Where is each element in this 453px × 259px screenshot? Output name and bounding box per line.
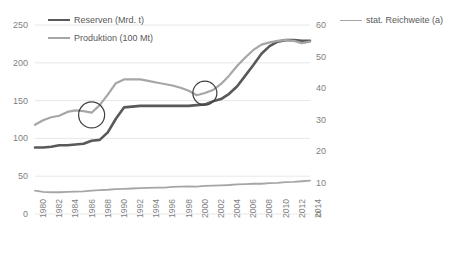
- x-tick: 2006: [249, 199, 258, 218]
- x-tick: 2012: [298, 199, 307, 218]
- y-right-tick: 40: [316, 83, 342, 93]
- legend-item-1[interactable]: Reserven (Mrd. t): [48, 15, 144, 25]
- x-tick: 1998: [185, 199, 194, 218]
- circle-1987: [79, 102, 105, 128]
- series-line-1: [35, 40, 310, 147]
- legend-label: stat. Reichweite (a): [366, 15, 443, 25]
- legend-swatch-icon: [48, 19, 70, 21]
- legend-swatch-icon: [340, 20, 362, 21]
- y-left-tick: 50: [2, 171, 28, 181]
- legend-item-3[interactable]: stat. Reichweite (a): [340, 15, 443, 25]
- x-tick: 1992: [136, 199, 145, 218]
- y-left-tick: 0: [2, 209, 28, 219]
- x-tick: 2000: [201, 199, 210, 218]
- x-tick: 1982: [55, 199, 64, 218]
- legend-swatch-icon: [48, 37, 70, 39]
- legend-label: Reserven (Mrd. t): [74, 15, 144, 25]
- x-tick: 2008: [265, 199, 274, 218]
- y-right-tick: 60: [316, 20, 342, 30]
- x-tick: 1988: [104, 199, 113, 218]
- gridlines: [35, 25, 310, 214]
- x-tick: 1996: [168, 199, 177, 218]
- x-tick: 2014: [314, 199, 323, 218]
- chart-container: 050100150200250 0102030405060 1980198219…: [0, 0, 453, 259]
- x-tick: 2004: [233, 199, 242, 218]
- y-right-tick: 30: [316, 115, 342, 125]
- x-tick: 2002: [217, 199, 226, 218]
- x-tick: 1984: [71, 199, 80, 218]
- legend-item-2[interactable]: Produktion (100 Mt): [48, 33, 153, 43]
- x-tick: 2010: [282, 199, 291, 218]
- x-tick: 1990: [120, 199, 129, 218]
- series-line-3: [35, 181, 310, 193]
- y-right-tick: 50: [316, 52, 342, 62]
- y-right-tick: 10: [316, 178, 342, 188]
- x-tick: 1994: [152, 199, 161, 218]
- series-line-2: [35, 40, 310, 125]
- y-left-tick: 250: [2, 20, 28, 30]
- y-left-tick: 200: [2, 58, 28, 68]
- y-left-tick: 150: [2, 96, 28, 106]
- y-left-tick: 100: [2, 133, 28, 143]
- x-tick: 1986: [88, 199, 97, 218]
- x-tick: 1980: [39, 199, 48, 218]
- legend-label: Produktion (100 Mt): [74, 33, 153, 43]
- y-right-tick: 20: [316, 146, 342, 156]
